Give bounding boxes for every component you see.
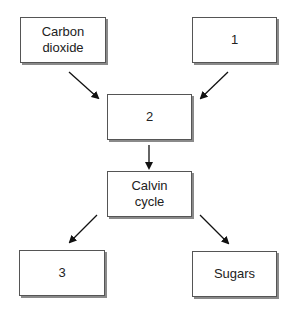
arrow-calvin-to-3 bbox=[70, 215, 97, 242]
node-sugars: Sugars bbox=[192, 251, 277, 297]
arrow-co2-to-2 bbox=[69, 72, 98, 98]
node-label: 3 bbox=[58, 265, 65, 281]
node-carbon-dioxide: Carbon dioxide bbox=[20, 17, 106, 63]
node-3: 3 bbox=[19, 250, 105, 296]
node-calvin-cycle: Calvin cycle bbox=[107, 171, 192, 217]
node-label: Sugars bbox=[214, 266, 255, 282]
arrow-1-to-2 bbox=[201, 72, 228, 98]
node-label: 2 bbox=[146, 109, 153, 125]
node-label: cycle bbox=[131, 194, 167, 210]
node-label: Calvin bbox=[131, 178, 167, 194]
node-2: 2 bbox=[107, 94, 192, 140]
node-label: dioxide bbox=[42, 40, 85, 56]
node-1: 1 bbox=[192, 17, 277, 63]
node-label: 1 bbox=[231, 32, 238, 48]
node-label: Carbon bbox=[42, 24, 85, 40]
arrow-calvin-to-sugars bbox=[200, 215, 228, 243]
